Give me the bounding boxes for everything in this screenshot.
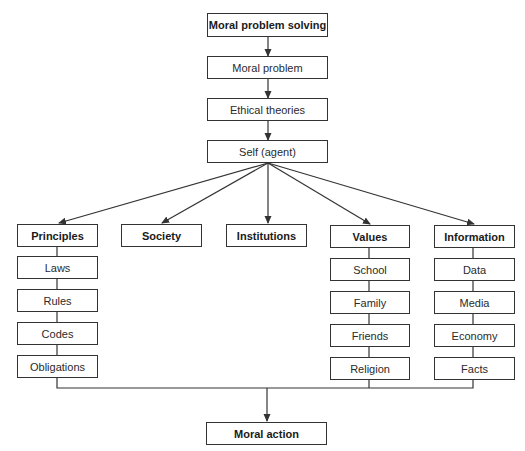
- node-moral-problem: Moral problem: [207, 56, 328, 79]
- node-obligations: Obligations: [17, 355, 98, 378]
- arrow-self_agent-to-society: [162, 163, 268, 223]
- node-label: Moral action: [234, 428, 299, 440]
- node-label: Laws: [45, 262, 71, 274]
- node-codes: Codes: [17, 322, 98, 345]
- node-information: Information: [434, 225, 515, 248]
- node-self-agent: Self (agent): [207, 140, 328, 163]
- node-family: Family: [330, 291, 410, 314]
- node-facts: Facts: [434, 357, 515, 380]
- node-school: School: [330, 258, 410, 281]
- arrow-self_agent-to-principles: [59, 163, 268, 223]
- node-label: Principles: [31, 230, 84, 242]
- node-moral-action: Moral action: [206, 422, 327, 445]
- node-label: Information: [444, 231, 505, 243]
- node-rules: Rules: [17, 289, 98, 312]
- node-label: Codes: [42, 328, 74, 340]
- node-label: Values: [353, 231, 388, 243]
- node-label: Friends: [352, 330, 389, 342]
- arrow-self_agent-to-values: [268, 163, 370, 224]
- node-economy: Economy: [434, 324, 515, 347]
- node-label: School: [353, 264, 387, 276]
- node-institutions: Institutions: [226, 224, 307, 247]
- node-label: Media: [460, 297, 490, 309]
- node-label: Religion: [350, 363, 390, 375]
- node-label: Society: [142, 230, 181, 242]
- moral-problem-solving-diagram: Moral problem solvingMoral problemEthica…: [0, 0, 525, 451]
- node-society: Society: [121, 224, 202, 247]
- node-laws: Laws: [17, 256, 98, 279]
- node-media: Media: [434, 291, 515, 314]
- node-label: Moral problem: [232, 62, 302, 74]
- node-label: Obligations: [30, 361, 85, 373]
- node-values: Values: [330, 225, 410, 248]
- node-data: Data: [434, 258, 515, 281]
- connector-merge-left: [57, 378, 473, 388]
- node-label: Facts: [461, 363, 488, 375]
- node-principles: Principles: [17, 224, 98, 247]
- node-ethical-theories: Ethical theories: [207, 98, 328, 121]
- node-moral-problem-solving: Moral problem solving: [207, 13, 328, 37]
- node-label: Economy: [452, 330, 498, 342]
- node-label: Institutions: [237, 230, 296, 242]
- node-label: Ethical theories: [230, 104, 305, 116]
- arrow-self_agent-to-information: [268, 163, 474, 224]
- node-label: Rules: [43, 295, 71, 307]
- node-religion: Religion: [330, 357, 410, 380]
- node-label: Moral problem solving: [209, 19, 326, 31]
- node-friends: Friends: [330, 324, 410, 347]
- node-label: Family: [354, 297, 386, 309]
- node-label: Data: [463, 264, 486, 276]
- node-label: Self (agent): [239, 146, 296, 158]
